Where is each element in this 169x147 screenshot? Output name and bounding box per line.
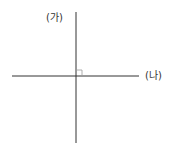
diagram-canvas: [0, 0, 169, 147]
horizontal-line-label: (나): [145, 70, 162, 82]
right-angle-marker: [76, 70, 82, 76]
perpendicular-lines-diagram: (가) (나): [0, 0, 169, 147]
vertical-line-label: (가): [46, 12, 63, 24]
